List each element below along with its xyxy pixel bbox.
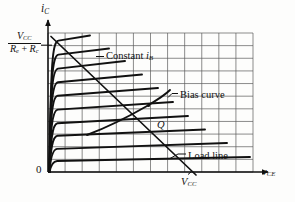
plot-svg: [0, 0, 295, 202]
ic-curve-8: [50, 130, 206, 173]
y-intercept-numerator: VCC: [8, 31, 41, 42]
constant-ib-text: Constant: [106, 50, 146, 61]
q-point-marker: [147, 104, 150, 107]
origin-label: 0: [36, 164, 42, 176]
x-intercept-subscript: CC: [187, 180, 196, 187]
figure-container: iC vCE 0 VCC Re + Rc Constant iB Bias cu…: [0, 0, 295, 202]
constant-ib-subscript: B: [149, 54, 153, 61]
bias-curve-leader: [168, 94, 178, 98]
x-intercept-label: VCC: [181, 176, 196, 188]
q-point-label: Q: [157, 119, 165, 130]
constant-ib-label: Constant iB: [106, 50, 153, 62]
ic-curve-7: [50, 116, 189, 172]
y-intercept-denominator: Re + Rc: [8, 44, 41, 55]
bias-curve-label: Bias curve: [180, 89, 225, 100]
y-axis-subscript: C: [44, 7, 49, 16]
y-axis-label: iC: [41, 2, 49, 15]
y-intercept-label: VCC Re + Rc: [8, 31, 41, 55]
x-axis-subscript: CE: [267, 170, 276, 177]
x-axis-label: vCE: [262, 166, 275, 178]
load-line-label: Load line: [188, 150, 228, 161]
